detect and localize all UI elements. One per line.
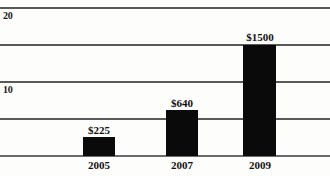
bar-2009 [243, 45, 276, 156]
x-tick-label-2005: 2005 [69, 159, 129, 172]
x-tick-label-2009: 2009 [229, 159, 291, 172]
gridline-4 [0, 118, 330, 120]
y-tick-label-20: 20 [3, 10, 13, 21]
gridline-3 [0, 81, 330, 83]
bar-value-label-2005: $225 [69, 124, 129, 136]
bar-2007 [166, 110, 198, 156]
axis-baseline [0, 155, 330, 157]
bar-value-label-2009: $1500 [229, 31, 291, 43]
bar-2005 [83, 137, 115, 156]
gridline-top [0, 7, 330, 9]
gridline-2 [0, 44, 330, 46]
plot-area: 20 10 $225 2005 $640 2007 $1500 2009 [0, 0, 330, 176]
x-tick-label-2007: 2007 [151, 159, 213, 172]
bar-chart: 20 10 $225 2005 $640 2007 $1500 2009 [0, 0, 330, 176]
bar-value-label-2007: $640 [151, 97, 213, 109]
y-tick-label-10: 10 [3, 84, 13, 95]
